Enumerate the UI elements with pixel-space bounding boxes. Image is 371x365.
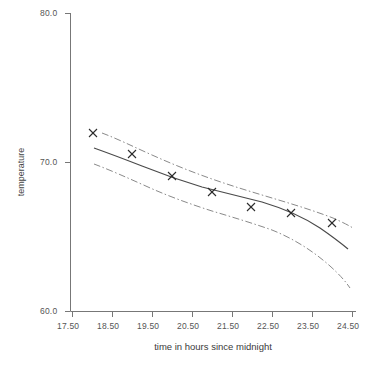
x-tick-label-1850: 18.50 xyxy=(97,321,119,331)
data-point-marker xyxy=(89,129,97,137)
data-point-marker xyxy=(287,209,295,217)
y-axis-ticks xyxy=(65,14,71,312)
y-tick-label-60: 60.0 xyxy=(40,306,57,316)
x-tick-label-2250: 22.50 xyxy=(257,321,279,331)
data-point-marker xyxy=(128,150,136,158)
x-tick-label-2450: 24.50 xyxy=(337,321,359,331)
x-tick-label-2050: 20.50 xyxy=(177,321,199,331)
fitted-curve xyxy=(94,148,348,249)
x-tick-label-1950: 19.50 xyxy=(137,321,159,331)
x-axis-ticks xyxy=(73,312,353,318)
x-tick-label-2150: 21.50 xyxy=(217,321,239,331)
y-tick-label-70: 70.0 xyxy=(40,157,57,167)
x-axis-label: time in hours since midnight xyxy=(154,341,272,352)
chart-container: temperature time in hours since midnight… xyxy=(0,0,371,365)
data-point-markers xyxy=(89,129,336,227)
y-tick-label-80: 80.0 xyxy=(40,8,57,18)
x-tick-label-2350: 23.50 xyxy=(297,321,319,331)
upper-confidence-band xyxy=(102,133,353,228)
data-point-marker xyxy=(247,203,255,211)
x-tick-label-1750: 17.50 xyxy=(57,321,79,331)
data-point-marker xyxy=(328,219,336,227)
lower-confidence-band xyxy=(94,164,350,288)
y-axis-label: temperature xyxy=(16,148,26,197)
